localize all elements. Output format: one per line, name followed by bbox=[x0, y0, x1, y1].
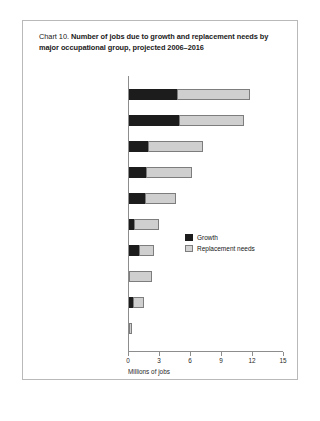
x-tick-label-0: 0 bbox=[126, 357, 130, 364]
legend-entry-replacement-needs: Replacement needs bbox=[185, 244, 255, 253]
bar-segment-growth bbox=[129, 89, 177, 100]
growth-swatch-icon bbox=[185, 234, 193, 241]
legend-label-replacement-needs: Replacement needs bbox=[197, 245, 255, 252]
chart-legend: Growth Replacement needs bbox=[185, 233, 255, 254]
x-tick-mark-12 bbox=[252, 352, 253, 356]
x-tick-label-6: 6 bbox=[188, 357, 192, 364]
bar-segment-replacement-needs bbox=[146, 167, 193, 178]
bar-segment-growth bbox=[129, 193, 145, 204]
bar-segment-replacement-needs bbox=[177, 89, 250, 100]
x-tick-mark-6 bbox=[190, 352, 191, 356]
x-tick-mark-3 bbox=[159, 352, 160, 356]
bar-segment-replacement-needs bbox=[129, 271, 152, 282]
bar-segment-replacement-needs bbox=[148, 141, 204, 152]
bar-segment-growth bbox=[129, 115, 179, 126]
bar-segment-replacement-needs bbox=[139, 245, 154, 256]
x-tick-mark-9 bbox=[221, 352, 222, 356]
x-tick-mark-15 bbox=[283, 352, 284, 356]
x-tick-label-3: 3 bbox=[157, 357, 161, 364]
bar-segment-growth bbox=[129, 167, 146, 178]
bar-segment-replacement-needs bbox=[179, 115, 244, 126]
x-tick-label-9: 9 bbox=[219, 357, 223, 364]
x-tick-label-12: 12 bbox=[248, 357, 255, 364]
chart-figure-frame: Chart 10. Number of jobs due to growth a… bbox=[22, 20, 298, 380]
bar-segment-replacement-needs bbox=[129, 323, 132, 334]
replacement-needs-swatch-icon bbox=[185, 245, 193, 252]
legend-entry-growth: Growth bbox=[185, 233, 255, 242]
chart-title: Chart 10. Number of jobs due to growth a… bbox=[39, 32, 285, 53]
plot-area: 0 3 6 9 12 15 Millions of jobs Service P… bbox=[128, 76, 283, 351]
x-axis-line bbox=[128, 351, 283, 352]
legend-label-growth: Growth bbox=[197, 234, 218, 241]
bar-segment-growth bbox=[129, 141, 148, 152]
chart-title-prefix: Chart 10. bbox=[39, 32, 71, 41]
x-tick-label-15: 15 bbox=[279, 357, 286, 364]
x-axis-title: Millions of jobs bbox=[128, 368, 170, 375]
chart-title-main: Number of jobs due to growth and replace… bbox=[39, 32, 268, 52]
x-tick-mark-0 bbox=[128, 352, 129, 356]
bar-segment-replacement-needs bbox=[134, 219, 159, 230]
bar-segment-growth bbox=[129, 245, 139, 256]
bar-segment-replacement-needs bbox=[145, 193, 176, 204]
bar-segment-replacement-needs bbox=[133, 297, 144, 308]
